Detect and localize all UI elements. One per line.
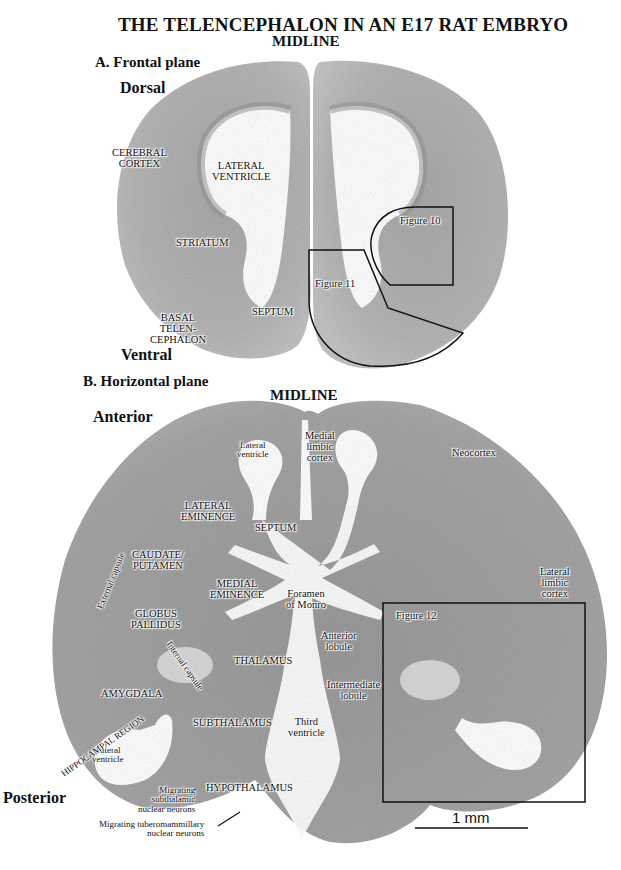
label-medial-eminence: MEDIAL EMINENCE [210,578,264,600]
panel-a-dorsal: Dorsal [120,80,165,97]
label-globus-pallidus: GLOBUS PALLIDUS [131,608,181,630]
label-caudate-putamen: CAUDATE/ PUTAMEN [132,549,184,571]
label-septum-b: SEPTUM [255,522,296,533]
panel-b-midline: MIDLINE [270,388,338,404]
panel-b-anterior: Anterior [93,409,153,426]
label-third-ventricle: Third ventricle [288,716,325,738]
label-basal-telencephalon: BASAL TELEN- CEPHALON [150,312,206,345]
label-septum-a: SEPTUM [252,306,293,317]
panel-b-posterior: Posterior [3,790,66,807]
label-hypothalamus: HYPOTHALAMUS [206,782,293,793]
label-amygdala: AMYGDALA [101,688,162,699]
panel-a-heading: A. Frontal plane [95,55,200,71]
label-foramen-of-monro: Foramen of Monro [286,588,326,610]
label-intermediate-lobule: Intermediate lobule [327,679,380,701]
label-striatum: STRIATUM [176,237,229,248]
panel-b-heading: B. Horizontal plane [83,374,208,390]
panel-a-ventral: Ventral [121,347,172,364]
panel-a-midline: MIDLINE [272,34,340,50]
label-lateral-eminence: LATERAL EMINENCE [181,500,235,522]
label-thalamus: THALAMUS [234,655,292,666]
label-lateral-ventricle-anterior: Lateral ventricle [237,441,268,460]
label-neocortex: Neocortex [452,447,496,458]
label-lateral-limbic-cortex: Lateral limbic cortex [540,566,570,599]
label-subthalamus: SUBTHALAMUS [193,717,272,728]
label-anterior-lobule: Anterior lobule [321,630,357,652]
label-migrating-tuberomammillary: Migrating tuberomammillary nuclear neuro… [99,820,204,839]
label-lateral-ventricle: LATERAL VENTRICLE [212,160,270,182]
figure-12-label: Figure 12 [396,610,437,621]
scale-bar-label: 1 mm [452,810,490,826]
label-cerebral-cortex: CEREBRAL CORTEX [112,147,167,169]
label-medial-limbic-cortex: Medial limbic cortex [305,430,335,463]
label-migrating-subthalamic: Migrating subthalamic nuclear neurons [138,786,195,814]
figure-title: THE TELENCEPHALON IN AN E17 RAT EMBRYO [118,15,568,35]
figure-10-label: Figure 10 [400,215,441,226]
figure-11-label: Figure 11 [315,278,355,289]
figure-stage: THE TELENCEPHALON IN AN E17 RAT EMBRYO M… [0,0,621,870]
